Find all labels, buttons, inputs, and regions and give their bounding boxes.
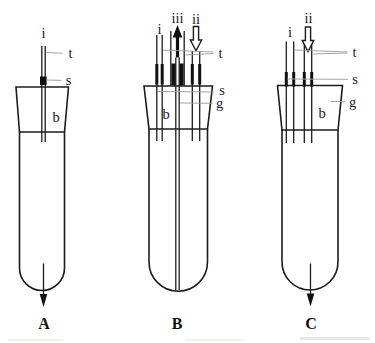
flow-arrow-head-c xyxy=(307,294,315,307)
label-gas-out-c: ii xyxy=(304,10,312,26)
label-tube-b: t xyxy=(218,45,222,61)
caption-c: C xyxy=(305,315,317,332)
label-gas-in-b: iii xyxy=(171,10,183,26)
test-tube-outline-a xyxy=(20,132,65,291)
label-gas-out-b: ii xyxy=(192,11,200,27)
apparatus-b: i iii ii t s g b B xyxy=(144,10,225,332)
label-glass-tube-c: g xyxy=(349,94,356,110)
septum-seal-1-c xyxy=(285,72,288,87)
septum-seal-centre-left-b xyxy=(171,64,175,86)
gas-in-arrow-iii-b xyxy=(173,25,183,58)
apparatus-a: i t s b A xyxy=(16,25,73,332)
leader-line-t1-c xyxy=(295,50,348,52)
apparatus-c: i ii t s g b C xyxy=(278,10,359,332)
gas-out-arrow-ii-b xyxy=(190,27,201,51)
page-crop-artifact xyxy=(185,339,245,341)
label-bung-a: b xyxy=(52,109,59,125)
septum-seal-centre-right-b xyxy=(180,64,184,86)
flow-arrow-head-a xyxy=(40,294,48,307)
label-septum-c: s xyxy=(352,71,358,87)
label-bung-b: b xyxy=(162,106,169,122)
septum-seal-i-left-b xyxy=(155,64,158,85)
bung-outline-b xyxy=(144,86,213,129)
label-bung-c: b xyxy=(318,105,325,121)
page-crop-artifact xyxy=(300,337,370,340)
label-tube-a: t xyxy=(68,45,72,61)
caption-b: B xyxy=(172,315,183,332)
septum-seal-i-right-b xyxy=(161,64,164,85)
leader-line-t-a xyxy=(47,53,63,54)
label-inlet-b: i xyxy=(157,21,161,37)
leader-line-s-b xyxy=(158,92,215,93)
label-glass-tube-b: g xyxy=(216,95,223,111)
septum-seal-ii-right-b xyxy=(198,64,201,85)
caption-a: A xyxy=(38,315,50,332)
label-septum-a: s xyxy=(66,72,72,88)
page-crop-artifact xyxy=(8,339,63,341)
test-tube-outline-b xyxy=(149,129,208,291)
septum-seal-ii-left-b xyxy=(191,64,194,85)
bung-outline-c xyxy=(278,86,343,131)
label-tube-c: t xyxy=(352,44,356,60)
leader-line-t2-c xyxy=(313,53,348,54)
label-inlet-c: i xyxy=(288,24,292,40)
label-inlet-a: i xyxy=(41,25,45,41)
figure-canvas: i t s b A xyxy=(0,0,375,343)
septum-seal-a xyxy=(40,77,47,86)
diagram-canvas: i t s b A xyxy=(0,0,375,343)
